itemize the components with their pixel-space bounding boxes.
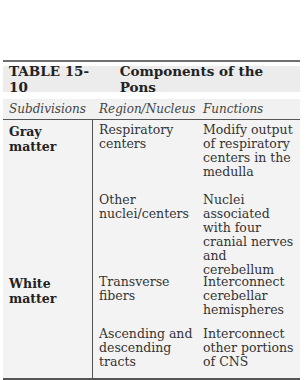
function-cell: Interconnect other portions of CNS [203, 327, 300, 373]
header-subdivisions: Subdivisions [3, 102, 93, 116]
group-gray-matter: Gray matter Respiratory centers Modify o… [3, 120, 300, 272]
header-region-nucleus: Region/Nucleus [93, 102, 203, 116]
subdivision-cell: Gray matter [3, 120, 93, 272]
table-header-row: Subdivisions Region/Nucleus Functions [3, 99, 300, 120]
group-white-matter: White matter Transverse fibers Interconn… [3, 272, 300, 378]
region-cell: Transverse fibers [93, 275, 203, 319]
table-row: Ascending and descending tracts Intercon… [93, 324, 300, 378]
table-row: Other nuclei/centers Nuclei associated w… [93, 190, 300, 272]
table-caption: TABLE 15-10 Components of the Pons [3, 66, 300, 92]
region-cell: Ascending and descending tracts [93, 327, 203, 373]
region-cell: Other nuclei/centers [93, 193, 203, 267]
table-title: Components of the Pons [120, 63, 300, 95]
function-cell: Interconnect cerebellar hemispheres [203, 275, 300, 319]
function-cell: Modify output of respiratory centers in … [203, 123, 300, 185]
function-cell: Nuclei associated with four cranial nerv… [203, 193, 300, 267]
region-cell: Respiratory centers [93, 123, 203, 185]
table-row: Respiratory centers Modify output of res… [93, 120, 300, 190]
table-number: TABLE 15-10 [9, 63, 106, 95]
pons-components-table: TABLE 15-10 Components of the Pons Subdi… [3, 60, 300, 380]
header-functions: Functions [203, 102, 300, 116]
table-row: Transverse fibers Interconnect cerebella… [93, 272, 300, 324]
top-rule [3, 60, 300, 62]
table-body: Gray matter Respiratory centers Modify o… [3, 120, 300, 378]
subdivision-cell: White matter [3, 272, 93, 378]
